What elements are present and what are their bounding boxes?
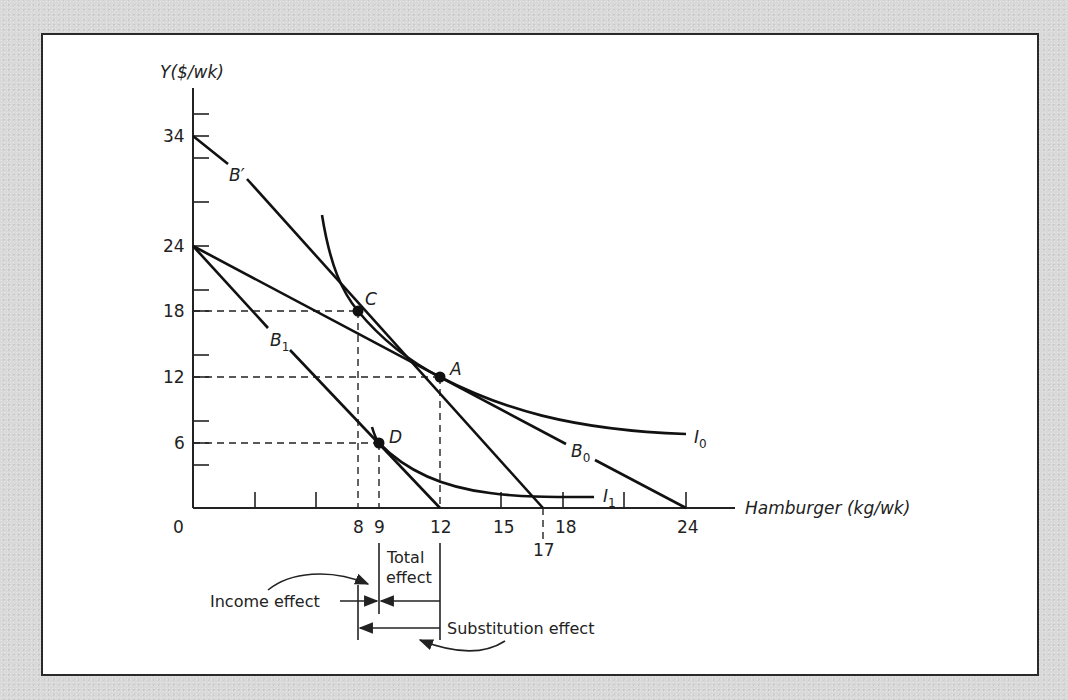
x-tick-12: 12 [430,517,452,537]
x-tick-17: 17 [533,540,555,560]
label-i1: I1 [603,486,616,510]
y-axis-ticks [193,114,209,465]
label-i0: I0 [694,427,707,451]
indifference-curve-diagram: Y($/wk) Hamburger (kg/wk) 0 6 12 18 24 3… [0,0,1068,700]
x-tick-24: 24 [677,517,699,537]
point-d [374,438,385,449]
label-b0: B0 [571,441,590,465]
x-axis-ticks [255,492,686,508]
label-a: A [449,359,462,379]
indifference-curve-i1 [372,427,594,497]
total-effect-line2: effect [386,568,432,587]
substitution-effect-label: Substitution effect [447,619,594,638]
x-axis-title: Hamburger (kg/wk) [745,498,910,518]
point-a [435,372,446,383]
point-c [353,306,364,317]
x-tick-8: 8 [353,517,364,537]
label-b1: B1 [270,330,289,354]
x-tick-9: 9 [374,517,385,537]
budget-line-b-prime [193,136,228,164]
y-axis-title: Y($/wk) [160,62,224,82]
x-tick-15: 15 [493,517,515,537]
y-tick-34: 34 [163,126,185,146]
y-tick-6: 6 [174,433,185,453]
budget-line-b0 [193,246,566,444]
label-b-prime: B′ [229,165,245,185]
y-tick-18: 18 [163,301,185,321]
label-d: D [389,427,402,447]
total-effect-line1: Total [386,548,424,567]
label-c: C [365,289,377,309]
x-tick-18: 18 [555,517,577,537]
y-tick-24: 24 [163,236,185,256]
budget-line-b1 [193,246,268,328]
guide-lines [193,311,543,540]
origin-label: 0 [173,517,184,537]
axes [193,88,735,508]
y-tick-12: 12 [163,367,185,387]
income-effect-label: Income effect [210,592,320,611]
